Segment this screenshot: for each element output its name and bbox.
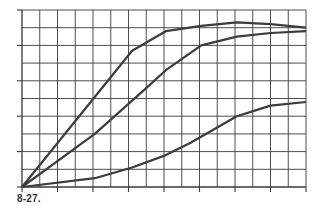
grid [22,10,306,187]
figure-caption: 8-27. [17,193,41,204]
line-chart [0,0,323,211]
axis-ticks [17,10,306,192]
